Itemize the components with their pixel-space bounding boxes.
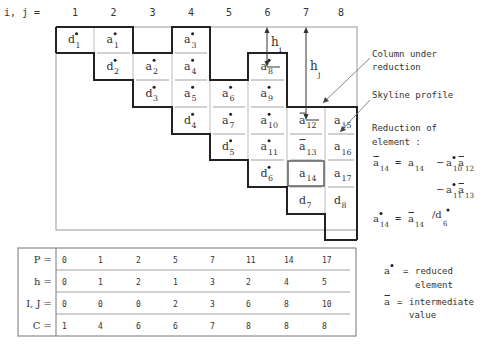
skyline-diagonal	[56, 53, 357, 240]
symbol-base: d	[299, 194, 306, 207]
column-index-2: 2	[111, 7, 117, 18]
table-cell: 1	[173, 278, 178, 287]
column-under-reduction-label: Column under	[372, 49, 438, 59]
reduction-title-2: element :	[372, 137, 421, 147]
symbol-subscript: 14	[415, 220, 425, 229]
table-cell: 1	[98, 256, 103, 265]
annotations: Column underreductionSkyline profileRedu…	[323, 49, 475, 320]
table-cell: 14	[284, 256, 294, 265]
h-i-sub: i	[279, 45, 282, 54]
symbol-base: a	[299, 167, 306, 180]
symbol-base: a	[184, 33, 191, 46]
reduced-mark-icon	[153, 86, 156, 89]
table-cell: 2	[173, 300, 178, 309]
legend-reduced-text-2: element	[415, 280, 453, 290]
symbol-base: d	[68, 33, 75, 46]
h-j-text: h	[310, 59, 318, 73]
formula3-num: a14	[408, 213, 425, 229]
legend-intermediate-symbol: a	[384, 296, 390, 308]
table-cell: 7	[210, 256, 215, 265]
table-cell: 4	[98, 322, 103, 331]
symbol-base: a	[446, 184, 452, 195]
table-row-label: I, J =	[26, 298, 52, 309]
cell-a3: a3	[184, 32, 197, 50]
table-cell: 6	[136, 322, 141, 331]
table-cell: 8	[284, 322, 289, 331]
symbol-base: a	[458, 157, 464, 168]
symbol-subscript: 10	[268, 121, 278, 130]
symbol-subscript: 5	[192, 94, 197, 103]
table-cell: 2	[246, 278, 251, 287]
formula2-minus: −	[436, 184, 444, 195]
reduced-mark-icon	[453, 183, 456, 186]
symbol-base: a	[261, 87, 268, 100]
cell-a12: a12	[299, 113, 317, 130]
table-cell: 0	[62, 300, 67, 309]
legend-intermediate-text-2: value	[409, 310, 436, 320]
symbol-subscript: 14	[415, 164, 425, 173]
column-index-6: 6	[265, 7, 271, 18]
symbol-base: d	[222, 140, 229, 153]
column-index-header: i, j =12345678	[4, 7, 344, 18]
table-cell: 0	[62, 256, 67, 265]
reduced-mark-icon	[229, 113, 232, 116]
column-index-4: 4	[188, 7, 194, 18]
cell-a10: a10	[261, 113, 279, 131]
symbol-base: a	[222, 87, 229, 100]
symbol-base: a	[384, 265, 390, 276]
table-cell: 8	[322, 322, 327, 331]
table-row-2: I, J =000236810	[26, 298, 332, 309]
symbol-base: a	[107, 33, 114, 46]
arrow-head-up-icon	[304, 27, 309, 33]
reduced-mark-icon	[114, 59, 117, 62]
table-cell: 0	[62, 278, 67, 287]
skyline-profile-label: Skyline profile	[372, 90, 453, 100]
symbol-subscript: 7	[307, 201, 312, 210]
reduced-mark-icon	[191, 86, 194, 89]
symbol-base: d	[334, 194, 341, 207]
cell-a4: a4	[184, 59, 197, 77]
column-index-1: 1	[72, 7, 78, 18]
symbol-base: a	[334, 140, 341, 153]
reduced-mark-icon	[268, 166, 271, 169]
cell-a13: a13	[299, 140, 317, 157]
symbol-base: a	[373, 157, 379, 168]
symbol-subscript: 3	[192, 41, 197, 50]
cell-a14: a14	[299, 167, 317, 184]
legend-reduced-text: reduced	[415, 266, 453, 276]
table-cell: 6	[246, 300, 251, 309]
formula3-lhs: a14	[373, 212, 390, 229]
table-row-label: C =	[33, 320, 52, 331]
symbol-subscript: 1	[76, 41, 81, 50]
cell-a17: a17	[334, 167, 352, 184]
symbol-base: a	[261, 114, 268, 127]
arrow-head-up-icon	[265, 27, 270, 33]
reduced-mark-icon	[380, 212, 383, 215]
symbol-subscript: 8	[342, 201, 347, 210]
cell-a16: a16	[334, 140, 352, 157]
symbol-subscript: 14	[380, 164, 390, 173]
h-j-label: hj	[310, 59, 320, 79]
table-cell: 4	[284, 278, 289, 287]
table-cell: 5	[322, 278, 327, 287]
table-cell: 1	[98, 278, 103, 287]
symbol-base: a	[184, 87, 191, 100]
reduced-mark-icon	[191, 113, 194, 116]
reduced-mark-icon	[153, 59, 156, 62]
h-i-text: h	[271, 35, 279, 49]
table-row-0: P =01257111417	[34, 254, 332, 265]
cell-d2: d2	[107, 59, 120, 77]
symbol-subscript: 8	[268, 67, 273, 76]
symbol-subscript: 4	[192, 67, 197, 76]
legend-intermediate-text: intermediate	[409, 297, 474, 307]
column-index-7: 7	[303, 7, 309, 18]
cell-a9: a9	[261, 86, 274, 104]
table-cell: 1	[62, 322, 67, 331]
cell-a5: a5	[184, 86, 197, 104]
h-i-label: hi	[271, 35, 282, 54]
h-j-sub: j	[317, 70, 320, 79]
column-index-5: 5	[226, 7, 232, 18]
table-cell: 3	[210, 300, 215, 309]
symbol-base: a	[261, 140, 268, 153]
symbol-subscript: 2	[153, 67, 158, 76]
